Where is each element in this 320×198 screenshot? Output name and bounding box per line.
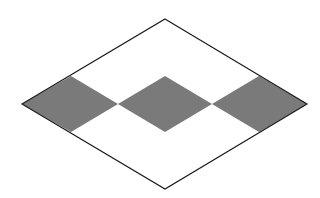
diagram-canvas	[0, 0, 320, 198]
rhombus-figure	[0, 0, 320, 198]
